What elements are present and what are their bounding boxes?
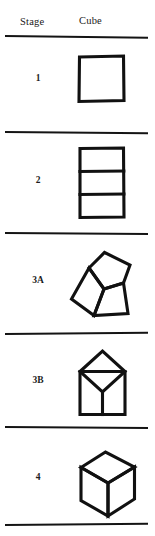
- rule-after-stage-3b: [5, 426, 148, 429]
- cube-figure-stage-1: [74, 52, 130, 108]
- square-drawing: [74, 52, 130, 108]
- cube-figure-stage-3b: [70, 346, 138, 420]
- stage-label-4: 4: [20, 472, 56, 482]
- stage-label-2: 2: [20, 175, 56, 185]
- rectangle-divider-upper: [80, 171, 124, 172]
- prism-top-face: [89, 253, 130, 290]
- rule-after-stage-1: [5, 131, 148, 134]
- rule-under-header: [5, 35, 148, 39]
- square-outline: [79, 56, 124, 102]
- isometric-cube-drawing: [74, 448, 144, 524]
- rule-after-stage-3a: [5, 332, 148, 335]
- rectangle-outline: [80, 148, 124, 218]
- tapered-prism-drawing: [60, 243, 146, 325]
- divided-rectangle-drawing: [74, 144, 130, 222]
- cube-drawing-stages-figure: Stage Cube 1 2 3A 3B: [0, 0, 155, 536]
- square-with-diamond-top-drawing: [70, 346, 138, 420]
- cube-figure-stage-3a: [60, 243, 146, 325]
- column-header-stage: Stage: [20, 16, 44, 27]
- cube-top-face: [81, 452, 135, 483]
- cube-figure-stage-2: [74, 144, 130, 222]
- rule-after-stage-2: [5, 232, 148, 235]
- rectangle-divider-lower: [80, 194, 124, 195]
- stage-label-1: 1: [20, 73, 56, 83]
- stage-label-3a: 3A: [20, 275, 56, 285]
- prism-left-face: [72, 268, 105, 316]
- cube-figure-stage-4: [74, 448, 144, 524]
- stage-label-3b: 3B: [20, 375, 56, 385]
- column-header-cube: Cube: [79, 15, 102, 26]
